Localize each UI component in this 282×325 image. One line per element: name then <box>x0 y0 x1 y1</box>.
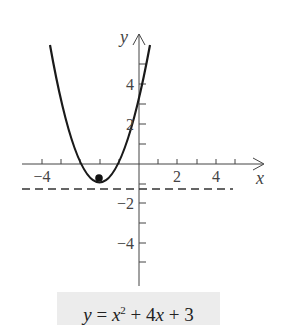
y-axis-label: y <box>118 27 128 47</box>
caption-constant: + 3 <box>164 304 194 325</box>
caption-x2: x <box>156 304 164 325</box>
x-tick-label: 2 <box>173 168 181 185</box>
x-tick-label: −4 <box>33 168 50 185</box>
equation-caption: y = x2 + 4x + 3 <box>57 292 220 325</box>
parabola-graph: −4 2 4 4 2 −2 −4 x y <box>0 0 282 325</box>
caption-equals: = <box>92 304 112 325</box>
caption-y: y <box>83 304 91 325</box>
x-axis-label: x <box>255 168 264 188</box>
y-tick-label: 2 <box>126 116 134 133</box>
y-tick-label: −2 <box>117 195 134 212</box>
caption-term: + 4 <box>126 304 156 325</box>
vertex-point <box>95 174 103 182</box>
y-tick-label: 4 <box>126 76 134 93</box>
y-tick-label: −4 <box>117 235 134 252</box>
x-tick-label: 4 <box>212 168 220 185</box>
